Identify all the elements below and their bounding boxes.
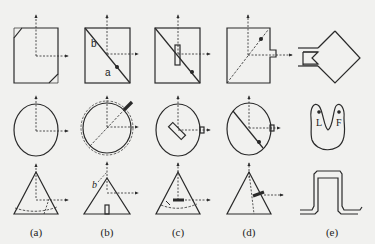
square-d: [227, 15, 292, 83]
ellipse-b: [81, 96, 138, 155]
ellipse-c: [156, 96, 210, 156]
annotation-b-triangle: b: [92, 179, 97, 190]
ellipse-d: [227, 96, 280, 155]
diamond-e: [298, 31, 360, 83]
caption-c: (c): [172, 226, 184, 238]
triangle-c: [156, 163, 210, 214]
ellipse-a: [14, 96, 68, 156]
square-c: [155, 15, 210, 83]
annotation-b-lower: a: [105, 67, 111, 78]
square-b: [85, 15, 138, 83]
caption-b: (b): [101, 226, 114, 238]
annotation-heart-right: F: [336, 117, 342, 128]
figure-canvas: b a b L F (a) (b) (c) (d) (e): [0, 0, 375, 244]
triangle-a: [14, 164, 68, 214]
hat-profile-e: [300, 171, 362, 214]
caption-e: (e): [326, 226, 338, 238]
annotation-heart-left: L: [316, 117, 322, 128]
square-a: [14, 15, 68, 83]
caption-d: (d): [243, 226, 256, 238]
annotation-b-upper: b: [91, 38, 97, 49]
caption-a: (a): [30, 226, 42, 238]
triangle-d: [227, 163, 283, 214]
